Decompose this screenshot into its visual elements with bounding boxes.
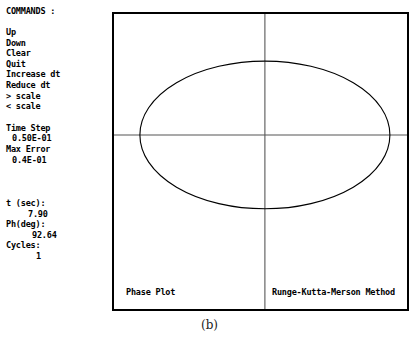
- phase-value: 92.64: [6, 230, 110, 241]
- parameters-block: Time Step 0.50E-01 Max Error 0.4E-01: [6, 123, 110, 165]
- command-increase-dt[interactable]: Increase dt: [6, 69, 110, 80]
- command-quit[interactable]: Quit: [6, 59, 110, 70]
- plot-title-label: Phase Plot: [126, 287, 175, 297]
- command-clear[interactable]: Clear: [6, 48, 110, 59]
- commands-list: Up Down Clear Quit Increase dt Reduce dt…: [6, 27, 110, 112]
- command-scale-down[interactable]: < scale: [6, 101, 110, 112]
- commands-heading: COMMANDS :: [6, 6, 110, 17]
- max-error-label: Max Error: [6, 144, 110, 155]
- phase-plot-canvas: [114, 14, 407, 309]
- command-reduce-dt[interactable]: Reduce dt: [6, 80, 110, 91]
- time-step-value: 0.50E-01: [6, 133, 110, 144]
- plot-method-label: Runge-Kutta-Merson Method: [272, 287, 395, 297]
- cycles-value: 1: [6, 251, 110, 262]
- cycles-label: Cycles:: [6, 240, 110, 251]
- time-label: t (sec):: [6, 198, 110, 209]
- phase-label: Ph(deg):: [6, 219, 110, 230]
- figure-caption: (b): [0, 318, 419, 332]
- status-block: t (sec): 7.90 Ph(deg): 92.64 Cycles: 1: [6, 198, 110, 262]
- command-up[interactable]: Up: [6, 27, 110, 38]
- time-step-label: Time Step: [6, 123, 110, 134]
- max-error-value: 0.4E-01: [6, 155, 110, 166]
- plot-frame: Phase Plot Runge-Kutta-Merson Method: [112, 12, 409, 311]
- command-scale-up[interactable]: > scale: [6, 91, 110, 102]
- plot-screen: COMMANDS : Up Down Clear Quit Increase d…: [0, 0, 419, 313]
- commands-panel: COMMANDS : Up Down Clear Quit Increase d…: [6, 6, 110, 306]
- command-down[interactable]: Down: [6, 38, 110, 49]
- time-value: 7.90: [6, 209, 110, 220]
